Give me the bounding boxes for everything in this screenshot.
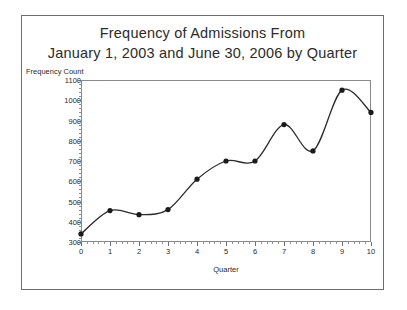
x-tick-label: 10: [361, 247, 381, 256]
x-tick-label: 5: [216, 247, 236, 256]
x-tick-minor: [290, 242, 291, 244]
data-point: [78, 231, 83, 236]
chart-title-line-1: Frequency of Admissions From: [22, 23, 383, 43]
x-tick-label: 4: [187, 247, 207, 256]
data-point: [107, 208, 112, 213]
x-tick-mark: [197, 242, 198, 246]
x-tick-minor: [348, 242, 349, 244]
x-tick-minor: [116, 242, 117, 244]
series-markers: [78, 88, 373, 237]
x-tick-minor: [325, 242, 326, 244]
chart-title: Frequency of Admissions From January 1, …: [22, 23, 383, 63]
x-tick-minor: [359, 242, 360, 244]
x-tick-minor: [151, 242, 152, 244]
x-tick-minor: [232, 242, 233, 244]
data-point: [281, 122, 286, 127]
x-tick-minor: [249, 242, 250, 244]
x-tick-minor: [301, 242, 302, 244]
x-tick-minor: [145, 242, 146, 244]
x-tick-minor: [336, 242, 337, 244]
chart-title-line-2: January 1, 2003 and June 30, 2006 by Qua…: [22, 43, 383, 63]
x-tick-minor: [174, 242, 175, 244]
x-tick-minor: [238, 242, 239, 244]
x-tick-minor: [203, 242, 204, 244]
x-tick-mark: [284, 242, 285, 246]
x-tick-minor: [93, 242, 94, 244]
x-tick-mark: [110, 242, 111, 246]
x-tick-label: 7: [274, 247, 294, 256]
x-tick-minor: [220, 242, 221, 244]
data-point: [368, 110, 373, 115]
x-tick-minor: [191, 242, 192, 244]
x-tick-minor: [214, 242, 215, 244]
x-tick-minor: [185, 242, 186, 244]
x-tick-label: 8: [303, 247, 323, 256]
x-tick-minor: [296, 242, 297, 244]
x-tick-minor: [87, 242, 88, 244]
x-tick-label: 3: [158, 247, 178, 256]
x-tick-mark: [226, 242, 227, 246]
x-tick-label: 9: [332, 247, 352, 256]
data-point: [252, 158, 257, 163]
x-tick-minor: [354, 242, 355, 244]
x-tick-mark: [81, 242, 82, 246]
x-axis-label: Quarter: [81, 265, 371, 274]
x-tick-minor: [319, 242, 320, 244]
x-tick-label: 0: [71, 247, 91, 256]
data-series-line: [81, 80, 371, 242]
figure-panel: Frequency of Admissions From January 1, …: [21, 15, 384, 290]
x-tick-minor: [180, 242, 181, 244]
x-tick-minor: [156, 242, 157, 244]
data-point: [194, 177, 199, 182]
x-tick-minor: [267, 242, 268, 244]
x-tick-minor: [330, 242, 331, 244]
x-tick-mark: [139, 242, 140, 246]
x-tick-minor: [278, 242, 279, 244]
x-tick-minor: [272, 242, 273, 244]
x-tick-label: 2: [129, 247, 149, 256]
x-tick-minor: [127, 242, 128, 244]
data-point: [165, 207, 170, 212]
data-point: [136, 212, 141, 217]
x-tick-mark: [313, 242, 314, 246]
x-tick-minor: [307, 242, 308, 244]
x-tick-minor: [162, 242, 163, 244]
x-tick-minor: [243, 242, 244, 244]
x-tick-mark: [371, 242, 372, 246]
x-tick-minor: [365, 242, 366, 244]
x-tick-minor: [122, 242, 123, 244]
x-tick-minor: [133, 242, 134, 244]
x-tick-minor: [261, 242, 262, 244]
x-tick-label: 6: [245, 247, 265, 256]
data-point: [223, 158, 228, 163]
data-point: [339, 88, 344, 93]
x-tick-mark: [168, 242, 169, 246]
y-axis: 30040050060070080090010001100: [51, 80, 81, 242]
x-tick-minor: [104, 242, 105, 244]
x-tick-mark: [255, 242, 256, 246]
x-tick-minor: [209, 242, 210, 244]
data-point: [310, 148, 315, 153]
x-tick-label: 1: [100, 247, 120, 256]
x-tick-minor: [98, 242, 99, 244]
x-tick-mark: [342, 242, 343, 246]
